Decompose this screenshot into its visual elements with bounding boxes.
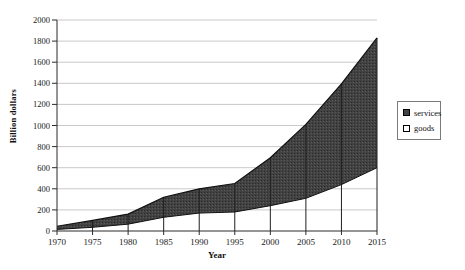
legend-label-services: services bbox=[414, 109, 441, 118]
legend-item-services: services bbox=[403, 109, 440, 118]
y-tick-label: 600 bbox=[37, 163, 50, 173]
x-tick-label: 1995 bbox=[226, 237, 245, 247]
y-tick-label: 200 bbox=[37, 205, 50, 215]
x-axis-title: Year bbox=[57, 250, 377, 260]
y-tick-label: 1200 bbox=[33, 99, 50, 109]
chart-screenshot: 0200400600800100012001400160018002000197… bbox=[0, 0, 465, 270]
y-axis-title: Billion dollars bbox=[8, 66, 18, 166]
x-tick-label: 2000 bbox=[261, 237, 280, 247]
y-tick-label: 1800 bbox=[33, 36, 50, 46]
x-tick-label: 1975 bbox=[84, 237, 103, 247]
legend-label-goods: goods bbox=[414, 124, 434, 133]
x-tick-label: 2010 bbox=[332, 237, 351, 247]
services-swatch-icon bbox=[403, 109, 410, 116]
x-tick-label: 2005 bbox=[297, 237, 316, 247]
goods-swatch-icon bbox=[403, 125, 410, 132]
x-tick-label: 2015 bbox=[368, 237, 387, 247]
x-tick-label: 1970 bbox=[48, 237, 67, 247]
x-tick-label: 1985 bbox=[155, 237, 174, 247]
y-tick-label: 1000 bbox=[33, 121, 50, 131]
x-tick-label: 1980 bbox=[119, 237, 138, 247]
y-tick-label: 0 bbox=[46, 226, 50, 236]
y-tick-label: 2000 bbox=[33, 15, 50, 25]
y-tick-label: 400 bbox=[37, 184, 50, 194]
y-tick-label: 1600 bbox=[33, 57, 50, 67]
y-tick-label: 1400 bbox=[33, 78, 50, 88]
legend-item-goods: goods bbox=[403, 124, 440, 133]
x-tick-label: 1990 bbox=[190, 237, 209, 247]
area-chart: 0200400600800100012001400160018002000197… bbox=[0, 0, 465, 270]
area-services bbox=[57, 38, 377, 229]
legend: services goods bbox=[397, 101, 441, 140]
y-tick-label: 800 bbox=[37, 142, 50, 152]
